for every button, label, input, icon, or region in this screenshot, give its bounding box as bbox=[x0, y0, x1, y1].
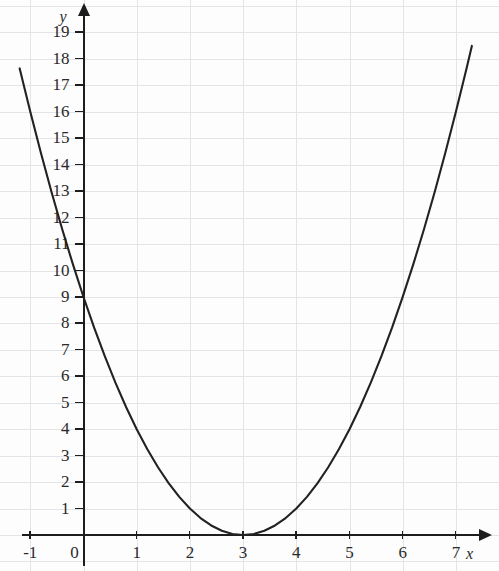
graph-figure: y x 12345678910111213141516171819-101234… bbox=[0, 0, 499, 571]
parabola-curve bbox=[20, 46, 472, 535]
curve-layer bbox=[0, 0, 499, 571]
